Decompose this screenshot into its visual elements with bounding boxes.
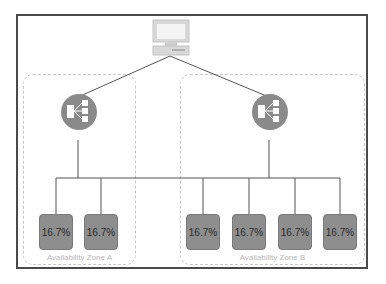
- node-load-label: 16.7%: [42, 227, 70, 238]
- node-load-label: 16.7%: [87, 227, 115, 238]
- computer-icon: [150, 18, 192, 58]
- node-load-label: 16.7%: [326, 227, 354, 238]
- server-node: 16.7%: [323, 214, 357, 250]
- node-load-label: 16.7%: [235, 227, 263, 238]
- node-load-label: 16.7%: [281, 227, 309, 238]
- server-node: 16.7%: [232, 214, 266, 250]
- node-load-label: 16.7%: [189, 227, 217, 238]
- server-node: 16.7%: [278, 214, 312, 250]
- load-balancer-icon: [60, 93, 98, 131]
- server-node: 16.7%: [39, 214, 73, 250]
- server-node: 16.7%: [186, 214, 220, 250]
- server-node: 16.7%: [84, 214, 118, 250]
- load-balancer-icon: [251, 93, 289, 131]
